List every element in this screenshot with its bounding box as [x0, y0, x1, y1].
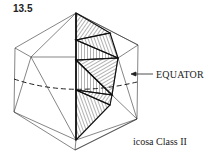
- figure-caption: icosa Class II: [133, 136, 187, 147]
- equator-label: EQUATOR: [156, 69, 204, 80]
- icosahedron-diagram: [0, 0, 220, 161]
- shaded-band: [76, 13, 118, 140]
- left-arrow-icon: [131, 72, 153, 76]
